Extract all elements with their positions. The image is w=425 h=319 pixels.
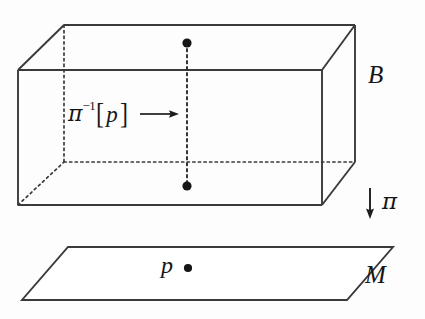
base-space-label: M [365, 262, 386, 287]
fiber-endpoint-dot-top [182, 38, 191, 47]
total-space-label: B [368, 62, 383, 87]
edge-bottom-right-diagonal [322, 162, 355, 205]
diagram-canvas [0, 0, 425, 319]
fiber-label-pi-symbol: π [68, 103, 82, 125]
base-point-label: p [161, 253, 173, 277]
fiber-preimage [182, 38, 191, 190]
fiber-label-exponent: −1 [82, 99, 95, 112]
fiber-label-pointer-arrow [140, 110, 179, 118]
projection-map-label: π [382, 190, 397, 213]
fiber-preimage-label: π−1[p] [68, 98, 129, 128]
edge-top-left-diagonal [18, 25, 64, 70]
base-point-dot [184, 264, 192, 272]
base-manifold-outline [22, 247, 393, 300]
fiber-bundle-diagram: B M π p π−1[p] [0, 0, 425, 319]
fiber-endpoint-dot-bottom [182, 181, 191, 190]
projection-arrow [366, 188, 374, 219]
base-manifold-parallelogram [22, 247, 393, 300]
fiber-label-argument: p [105, 103, 119, 126]
fiber-label-bracket-close: ] [120, 98, 128, 128]
hidden-edge-bottom-left-diagonal [18, 162, 64, 205]
fiber-label-bracket-open: [ [96, 98, 104, 128]
edge-top-right-diagonal [322, 25, 355, 70]
